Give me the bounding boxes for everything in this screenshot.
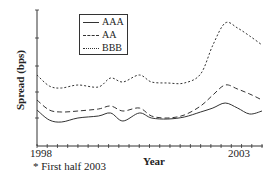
series-line-bbb [37,22,262,88]
series-line-aaa [37,103,262,122]
legend-item-aa: AA [80,29,127,41]
dashed-line-swatch-icon [83,35,99,36]
series-lines [37,22,262,122]
x-tick-label-2003: 2003 [228,147,250,159]
series-line-aa [37,85,262,118]
x-tick-label-1998: 1998 [30,147,52,159]
y-axis-label: Spread (bps) [14,50,26,110]
legend-item-aaa: AAA [80,16,127,28]
footnote: * First half 2003 [33,160,106,172]
solid-line-swatch-icon [83,22,99,23]
dotted-line-swatch-icon [83,48,99,49]
y-axis [35,10,39,146]
x-axis-label: Year [143,155,165,167]
legend-label: BBB [102,42,122,53]
legend: AAA AA BBB [79,14,128,55]
legend-label: AA [102,29,116,40]
legend-label: AAA [102,16,124,27]
legend-item-bbb: BBB [80,42,127,54]
